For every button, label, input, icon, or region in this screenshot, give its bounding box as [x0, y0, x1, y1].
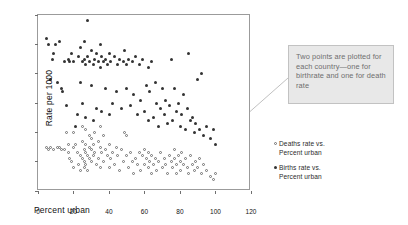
- data-point-births: [70, 52, 73, 55]
- data-point-deaths: [99, 166, 102, 169]
- data-point-deaths: [152, 163, 155, 166]
- annotation-text: Two points are plotted for each country—…: [296, 52, 386, 90]
- data-point-births: [170, 58, 173, 61]
- data-point-deaths: [127, 166, 130, 169]
- x-tick-mark: [144, 191, 145, 194]
- x-tick-mark: [251, 191, 252, 194]
- data-point-deaths: [157, 160, 160, 163]
- data-point-deaths: [200, 172, 203, 175]
- data-point-births: [193, 131, 196, 134]
- data-point-deaths: [138, 151, 141, 154]
- data-point-births: [74, 125, 77, 128]
- data-point-deaths: [115, 146, 118, 149]
- data-point-deaths: [92, 143, 95, 146]
- y-tick-mark: [35, 15, 38, 16]
- data-point-births: [194, 122, 197, 125]
- data-point-deaths: [150, 154, 153, 157]
- data-point-births: [115, 90, 118, 93]
- data-point-births: [84, 63, 87, 66]
- data-point-deaths: [108, 166, 111, 169]
- data-point-births: [147, 66, 150, 69]
- data-point-births: [108, 113, 111, 116]
- data-point-births: [104, 87, 107, 90]
- y-axis-label: Rate per 1000: [44, 38, 54, 158]
- data-point-deaths: [163, 157, 166, 160]
- data-point-deaths: [67, 151, 70, 154]
- data-point-deaths: [150, 172, 153, 175]
- data-point-deaths: [72, 166, 75, 169]
- data-point-deaths: [122, 160, 125, 163]
- data-point-births: [187, 52, 190, 55]
- plot-frame: Rate per 1000 0102030405060 020406080100…: [37, 14, 250, 190]
- data-point-births: [168, 104, 171, 107]
- data-point-births: [179, 125, 182, 128]
- data-point-deaths: [161, 166, 164, 169]
- data-point-deaths: [209, 175, 212, 178]
- data-point-births: [83, 58, 86, 61]
- chart-legend: Deaths rate vs. Percent urban Births rat…: [272, 140, 392, 188]
- data-point-deaths: [84, 143, 87, 146]
- data-point-births: [95, 107, 98, 110]
- data-point-births: [79, 81, 82, 84]
- data-point-births: [186, 107, 189, 110]
- data-point-deaths: [111, 151, 114, 154]
- data-point-deaths: [109, 157, 112, 160]
- data-point-deaths: [194, 160, 197, 163]
- legend-label-births: Births rate vs. Percent urban: [279, 164, 322, 181]
- data-point-births: [83, 40, 86, 43]
- data-point-births: [131, 60, 134, 63]
- data-point-deaths: [77, 163, 80, 166]
- data-point-births: [159, 107, 162, 110]
- data-point-deaths: [179, 169, 182, 172]
- data-point-deaths: [164, 163, 167, 166]
- data-point-births: [200, 72, 203, 75]
- data-point-births: [180, 113, 183, 116]
- data-point-births: [152, 116, 155, 119]
- data-point-births: [68, 60, 71, 63]
- scatter-plot-figure: Rate per 1000 0102030405060 020406080100…: [0, 0, 408, 225]
- data-point-births: [138, 63, 141, 66]
- data-point-births: [196, 78, 199, 81]
- data-point-deaths: [97, 157, 100, 160]
- data-point-deaths: [95, 163, 98, 166]
- data-point-deaths: [100, 151, 103, 154]
- data-point-births: [79, 46, 82, 49]
- data-point-births: [86, 19, 89, 22]
- data-point-births: [214, 143, 217, 146]
- data-point-births: [92, 119, 95, 122]
- data-point-deaths: [76, 151, 79, 154]
- data-point-births: [90, 49, 93, 52]
- data-point-births: [118, 58, 121, 61]
- data-point-births: [173, 87, 176, 90]
- x-tick-label: 100: [201, 208, 231, 215]
- data-point-births: [141, 58, 144, 61]
- data-point-births: [154, 81, 157, 84]
- data-point-deaths: [186, 166, 189, 169]
- data-point-births: [150, 60, 153, 63]
- data-point-births: [86, 55, 89, 58]
- data-point-births: [125, 87, 128, 90]
- data-point-deaths: [141, 154, 144, 157]
- data-point-births: [100, 110, 103, 113]
- data-point-births: [209, 137, 212, 140]
- data-point-deaths: [72, 131, 75, 134]
- data-point-deaths: [104, 148, 107, 151]
- data-point-births: [81, 102, 84, 105]
- data-point-deaths: [148, 160, 151, 163]
- data-point-births: [56, 81, 59, 84]
- data-point-deaths: [99, 146, 102, 149]
- data-point-births: [127, 58, 130, 61]
- data-point-deaths: [116, 154, 119, 157]
- data-point-births: [129, 104, 132, 107]
- data-point-births: [61, 90, 64, 93]
- data-point-births: [63, 60, 66, 63]
- data-point-deaths: [84, 163, 87, 166]
- data-point-deaths: [92, 154, 95, 157]
- data-point-births: [182, 93, 185, 96]
- data-point-deaths: [74, 143, 77, 146]
- data-point-births: [106, 63, 109, 66]
- data-point-births: [100, 55, 103, 58]
- data-point-deaths: [99, 125, 102, 128]
- data-point-deaths: [143, 163, 146, 166]
- data-point-births: [136, 113, 139, 116]
